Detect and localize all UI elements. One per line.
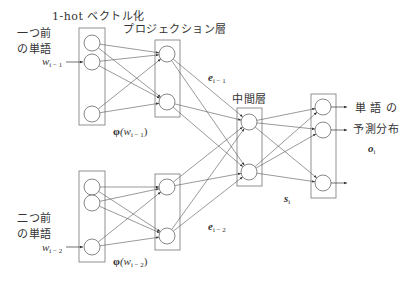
edge-input2-proj2 <box>100 189 159 202</box>
edge-middle-output <box>255 127 317 178</box>
edge-input2-proj2 <box>99 206 159 233</box>
node-output-0 <box>315 99 331 115</box>
phi1-close: ) <box>144 125 148 137</box>
edge-input2-proj2 <box>100 237 159 246</box>
edge-input1-proj1 <box>99 66 160 98</box>
phi1-label: φ(wi − 1) <box>113 126 147 139</box>
onehot-title: 1-hot ベクトル化 <box>52 11 145 22</box>
edge-proj1-middle <box>175 104 241 120</box>
node-middle-1 <box>241 164 257 180</box>
phi2-label: φ(wi − 2) <box>113 256 147 269</box>
node-middle-0 <box>241 114 257 130</box>
edge-middle-output <box>256 134 316 168</box>
input1-sub: i − 1 <box>49 61 62 69</box>
node-input2-1 <box>84 195 100 211</box>
e1-sub: i − 1 <box>213 77 226 85</box>
edge-proj2-middle <box>172 129 245 230</box>
projection-title: プロジェクション層 <box>123 24 227 35</box>
edge-proj1-middle <box>173 59 243 117</box>
node-proj2-1 <box>159 228 175 244</box>
input-output-arrows <box>66 62 347 247</box>
input1-var-label: wi − 1 <box>42 56 62 69</box>
middle-title: 中間層 <box>232 94 267 105</box>
edge-middle-output <box>255 112 317 166</box>
edge-input1-proj1 <box>100 55 159 61</box>
input2-sub: i − 2 <box>49 247 62 255</box>
edge-input1-proj1 <box>100 44 159 53</box>
edge-proj2-middle <box>173 127 242 182</box>
edge-middle-output <box>257 123 315 129</box>
output-label-line2: 予測分布 <box>353 124 399 135</box>
phi2-sub: i − 2 <box>131 261 144 269</box>
output-label-line1: 単 語 の <box>355 103 398 114</box>
node-input2-0 <box>84 179 100 195</box>
phi1-arg: (w <box>120 125 131 137</box>
prev2-label-line2: の単語 <box>17 229 52 240</box>
edge-proj1-middle <box>173 107 243 167</box>
o-sub: i <box>374 148 376 156</box>
node-input2-2 <box>84 239 100 255</box>
prev1-label-line1: 一つ前 <box>17 28 52 39</box>
edge-input2-proj2 <box>99 191 161 231</box>
phi1-sub: i − 1 <box>131 131 144 139</box>
node-input1-0 <box>84 35 100 51</box>
node-proj1-0 <box>159 46 175 62</box>
edge-input1-proj1 <box>100 103 159 112</box>
edge-middle-output <box>257 109 315 121</box>
e2-sub: i − 2 <box>213 226 226 234</box>
phi2-symbol: φ <box>113 255 120 267</box>
phi1-symbol: φ <box>113 125 120 137</box>
e2-label: ei − 2 <box>208 221 226 234</box>
node-output-2 <box>315 175 331 191</box>
phi2-close: ) <box>144 255 148 267</box>
input2-var-label: wi − 2 <box>42 242 62 255</box>
s-sub: i <box>288 198 290 206</box>
node-input1-2 <box>84 106 100 122</box>
prev2-label-line1: 二つ前 <box>17 213 52 224</box>
node-output-1 <box>315 122 331 138</box>
edge-input1-proj1 <box>98 59 161 109</box>
neural-language-model-diagram <box>0 0 402 281</box>
edge-input1-proj1 <box>98 48 160 97</box>
e1-label: ei − 1 <box>208 72 226 85</box>
o-label: oi <box>368 143 375 156</box>
s-label: si <box>284 193 290 206</box>
phi2-arg: (w <box>120 255 131 267</box>
prev1-label-line2: の単語 <box>17 44 52 55</box>
node-proj1-1 <box>159 94 175 110</box>
node-proj2-0 <box>159 179 175 195</box>
edge-middle-output <box>257 173 315 182</box>
node-input1-1 <box>84 54 100 70</box>
